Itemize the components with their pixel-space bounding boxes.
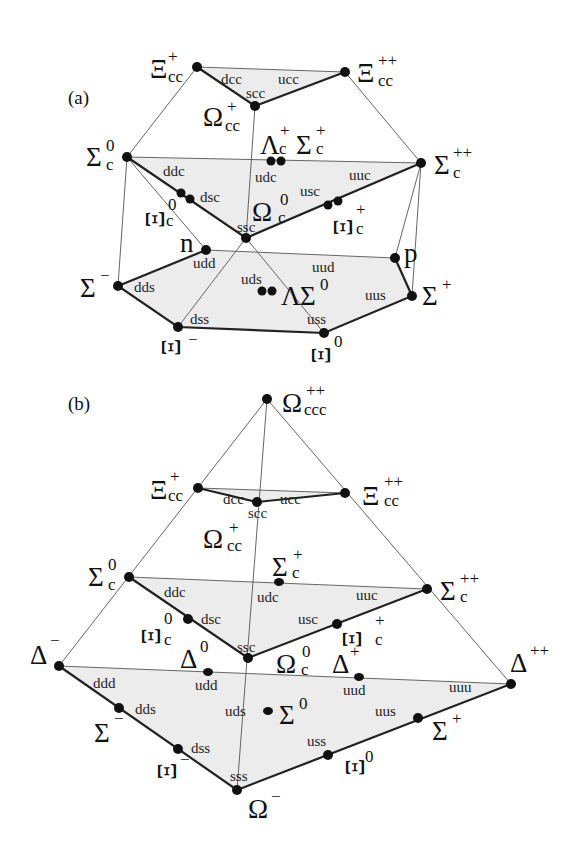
label-sigma-plus: Σ +	[432, 709, 462, 746]
svg-text:Ξ: Ξ	[150, 54, 167, 84]
svg-text:+: +	[227, 97, 237, 116]
label-omega-minus: Ω −	[248, 787, 281, 824]
quark-label: ddc	[163, 163, 185, 179]
svg-text:+: +	[170, 467, 180, 486]
label-omega-cc-plus: Ω + cc	[203, 518, 243, 555]
node-sigma-c-plusplus	[416, 158, 426, 168]
svg-text:Λ: Λ	[260, 130, 280, 160]
label-n: n	[180, 228, 194, 258]
svg-text:Ξ: Ξ	[156, 339, 186, 356]
quark-label: dsc	[200, 189, 220, 205]
node-p	[390, 253, 400, 263]
svg-text:Ω: Ω	[248, 794, 268, 824]
label-xi-0-charge: 0	[365, 747, 374, 766]
svg-text:cc: cc	[168, 67, 184, 86]
svg-text:Ξ: Ξ	[152, 763, 182, 780]
svg-text:c: c	[166, 211, 174, 230]
node-lambda	[258, 287, 267, 296]
svg-text:+: +	[350, 642, 360, 661]
svg-text:cc: cc	[225, 116, 241, 135]
node-xi-c-0	[177, 189, 186, 198]
svg-text:Δ: Δ	[332, 649, 349, 679]
svg-text:cc: cc	[168, 486, 184, 505]
node-delta-minus	[54, 661, 64, 671]
svg-text:c: c	[356, 219, 364, 238]
node-xi-minus	[173, 322, 183, 332]
svg-text:cc: cc	[378, 71, 394, 90]
quark-label: dss	[191, 740, 210, 756]
quark-label: uus	[365, 287, 386, 303]
label-delta-0: Δ 0	[180, 637, 209, 674]
svg-text:c: c	[292, 563, 300, 582]
svg-text:cc: cc	[227, 536, 243, 555]
quark-label: scc	[248, 505, 267, 521]
svg-text:Σ: Σ	[434, 150, 450, 180]
svg-text:Σ: Σ	[86, 142, 102, 172]
svg-text:0: 0	[106, 136, 115, 155]
node-xi-c-plus	[332, 619, 342, 629]
svg-text:Σ: Σ	[80, 273, 96, 303]
quark-label: dds	[135, 701, 156, 717]
quark-label: usc	[300, 183, 320, 199]
quark-label: udc	[257, 589, 279, 605]
quark-label: uud	[312, 259, 335, 275]
svg-text:Ξ: Ξ	[362, 481, 379, 511]
label-sigma-c-plus: Σ + c	[272, 545, 303, 582]
svg-text:ccc: ccc	[304, 400, 327, 419]
node-xi-c-plus	[324, 201, 333, 210]
label-xi-c-plus-flavor: c	[375, 630, 383, 649]
svg-text:c: c	[279, 139, 287, 158]
node-xi-c-0	[183, 614, 193, 624]
label-xi-c-0-charge: 0	[164, 609, 173, 628]
quark-label: uss	[307, 733, 326, 749]
quark-label: udc	[255, 169, 277, 185]
svg-text:Δ: Δ	[180, 644, 197, 674]
label-xi-c-plus: Ξ	[328, 219, 358, 236]
quark-label: uus	[375, 703, 396, 719]
node-xi-0	[323, 750, 333, 760]
svg-text:0: 0	[320, 275, 329, 294]
svg-text:Ω: Ω	[282, 388, 302, 418]
node-sigma-0	[263, 707, 273, 715]
label-lambda-c-plus: Λ + c	[260, 121, 290, 160]
node-sigma-c-0	[124, 572, 134, 582]
node-sigma-0	[268, 287, 277, 296]
svg-text:++: ++	[378, 51, 397, 70]
svg-text:Σ: Σ	[88, 562, 104, 592]
label-p: p	[404, 238, 418, 268]
panel-b: (b)	[30, 381, 549, 824]
svg-text:Σ: Σ	[272, 552, 288, 582]
svg-text:c: c	[316, 139, 324, 158]
svg-text:cc: cc	[384, 491, 400, 510]
svg-text:0: 0	[200, 637, 209, 656]
node-xi-0	[319, 328, 329, 338]
label-xi-cc-plusplus: Ξ ++ cc	[357, 51, 397, 90]
quark-label: sss	[230, 768, 248, 784]
svg-text:Δ: Δ	[510, 648, 527, 678]
label-xi-0-charge: 0	[334, 332, 343, 351]
label-sigma-c-0: Σ 0 c	[88, 555, 117, 594]
quark-label: uuc	[349, 167, 371, 183]
quark-label: dsc	[201, 611, 221, 627]
label-omega-c-0: Ω 0 c	[276, 642, 311, 679]
quark-label: dcc	[223, 491, 244, 507]
label-sigma-plus: Σ +	[422, 275, 452, 311]
svg-text:−: −	[271, 787, 281, 806]
svg-text:0: 0	[280, 190, 289, 209]
label-sigma-c-plus: Σ + c	[296, 121, 326, 160]
quark-label: uds	[225, 703, 246, 719]
svg-text:+: +	[293, 545, 303, 564]
svg-text:c: c	[108, 575, 116, 594]
label-xi-minus: Ξ	[156, 339, 186, 356]
svg-text:Ξ: Ξ	[328, 219, 358, 236]
svg-text:+: +	[316, 121, 326, 140]
quark-label: dds	[134, 279, 155, 295]
label-xi-c-plus-charge: +	[375, 611, 385, 630]
quark-label: usc	[298, 611, 318, 627]
quark-label: uuu	[449, 679, 472, 695]
svg-text:0: 0	[108, 555, 117, 574]
label-xi-c-0-flavor: c	[164, 630, 172, 649]
label-delta-plusplus: Δ ++	[510, 641, 549, 678]
node-delta-plusplus	[506, 679, 516, 689]
label-xi-minus-charge: −	[188, 330, 198, 349]
